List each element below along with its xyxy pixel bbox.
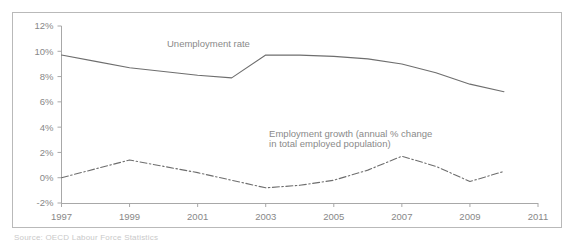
series-annotation-label: Unemployment rate bbox=[167, 38, 250, 49]
y-tick-label: 12% bbox=[34, 20, 54, 31]
y-tick-labels: -2%0%2%4%6%8%10%12% bbox=[34, 20, 54, 208]
x-tick-label: 2011 bbox=[528, 211, 548, 222]
x-tick-label: 1999 bbox=[119, 211, 140, 222]
chart-plot-area: -2%0%2%4%6%8%10%12% 19971999200120032005… bbox=[0, 0, 574, 246]
y-tick-label: 4% bbox=[40, 122, 54, 133]
y-tick-label: 10% bbox=[34, 46, 54, 57]
series-line-unemployment-rate bbox=[62, 55, 504, 92]
chart-footnote: Source: OECD Labour Force Statistics bbox=[14, 233, 158, 242]
y-tick-label: -2% bbox=[37, 197, 54, 208]
y-axis: -2%0%2%4%6%8%10%12% bbox=[34, 20, 61, 208]
x-tick-label: 2009 bbox=[459, 211, 480, 222]
series-line-employment-growth bbox=[62, 156, 504, 188]
series-annotation-label: in total employed population) bbox=[269, 138, 390, 149]
x-axis: 19971999200120032005200720092011 bbox=[51, 203, 548, 222]
y-tick-marks bbox=[58, 26, 62, 203]
x-tick-label: 2001 bbox=[187, 211, 208, 222]
y-tick-label: 0% bbox=[40, 172, 54, 183]
x-tick-label: 2005 bbox=[323, 211, 344, 222]
x-tick-label: 1997 bbox=[51, 211, 72, 222]
y-tick-label: 6% bbox=[40, 96, 54, 107]
x-tick-label: 2007 bbox=[391, 211, 412, 222]
x-tick-labels: 19971999200120032005200720092011 bbox=[51, 211, 548, 222]
chart-figure: -2%0%2%4%6%8%10%12% 19971999200120032005… bbox=[0, 0, 574, 246]
chart-annotations: Unemployment rateEmployment growth (annu… bbox=[167, 38, 432, 149]
x-tick-label: 2003 bbox=[255, 211, 276, 222]
y-tick-label: 2% bbox=[40, 147, 54, 158]
y-tick-label: 8% bbox=[40, 71, 54, 82]
